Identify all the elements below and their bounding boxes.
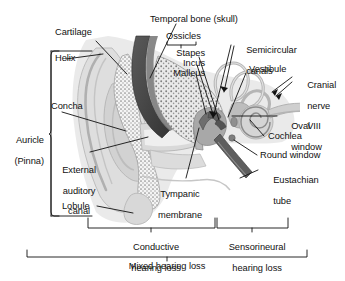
sensorineural-line2: hearing loss xyxy=(232,263,282,273)
label-auricle-line1: Auricle xyxy=(16,135,44,145)
label-external-auditory-canal: External auditory canal xyxy=(52,155,96,226)
label-stapes: Stapes xyxy=(157,48,205,58)
leader-concha xyxy=(62,112,126,131)
label-eustachian-line1: Eustachian xyxy=(273,175,319,185)
sensorineural-line1: Sensorineural xyxy=(229,242,286,252)
conductive-line1: Conductive xyxy=(133,242,179,252)
label-concha: Concha xyxy=(51,101,83,111)
label-semicircular-canals: Semicircular canals xyxy=(236,35,297,86)
label-tympanic-membrane: Tympanic membrane xyxy=(145,179,205,230)
bracket-label-mixed: Mixed hearing loss xyxy=(107,261,227,271)
bracket-label-conductive: Conductive hearing loss xyxy=(111,232,191,281)
leader-lobule xyxy=(97,206,133,213)
bracket-ossicles xyxy=(167,42,196,45)
leader-cochlea xyxy=(250,120,264,136)
label-eustachian-tube: Eustachian tube xyxy=(263,165,319,216)
ear-anatomy-figure: Cartilage Helix Concha Auricle (Pinna) E… xyxy=(0,0,345,281)
label-incus: Incus xyxy=(157,58,205,68)
label-cranial-line1: Cranial xyxy=(307,80,336,90)
label-cranial-line2: nerve xyxy=(307,101,330,111)
label-auricle: Auricle (Pinna) xyxy=(0,125,44,176)
label-malleus: Malleus xyxy=(149,68,205,78)
arrowhead-semicircular-1 xyxy=(209,111,217,118)
arrowhead-semicircular-2 xyxy=(220,86,228,92)
label-auricle-line2: (Pinna) xyxy=(14,156,44,166)
label-round-window: Round window xyxy=(260,150,320,160)
label-cartilage: Cartilage xyxy=(55,27,92,37)
label-tympanic-line1: Tympanic xyxy=(160,189,199,199)
leader-eac xyxy=(90,137,148,152)
label-temporal-bone: Temporal bone (skull) xyxy=(150,14,238,24)
label-tympanic-line2: membrane xyxy=(158,210,202,220)
label-cochlea: Cochlea xyxy=(268,131,302,141)
label-eac-line2: auditory xyxy=(63,186,96,196)
label-eac-line1: External xyxy=(62,165,96,175)
label-vestibule: Vestibule xyxy=(249,64,286,74)
label-semicircular-line1: Semicircular xyxy=(246,45,297,55)
leader-semicircular-1 xyxy=(213,45,231,118)
label-oval-window-line1: Oval xyxy=(291,121,310,131)
label-ossicles: Ossicles xyxy=(166,31,201,41)
leader-tympanic xyxy=(186,128,199,178)
arrowhead-cranial-2 xyxy=(276,93,282,100)
label-helix: Helix xyxy=(55,53,75,63)
bracket-label-sensorineural: Sensorineural hearing loss xyxy=(208,232,296,281)
label-eustachian-line2: tube xyxy=(273,196,291,206)
leader-round-window xyxy=(234,140,257,155)
bracket-sensorineural xyxy=(217,218,288,228)
label-lobule: Lobule xyxy=(62,201,90,211)
leader-eustachian xyxy=(240,170,258,178)
leader-cartilage xyxy=(96,41,127,74)
leader-malleus xyxy=(196,74,206,114)
